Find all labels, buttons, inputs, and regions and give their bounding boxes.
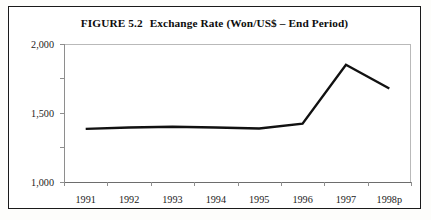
x-tick-mark	[324, 182, 325, 186]
x-tick-label: 1996	[292, 194, 312, 205]
x-tick-label: 1998p	[377, 194, 402, 205]
figure-screenshot: FIGURE 5.2Exchange Rate (Won/US$ – End P…	[0, 0, 431, 220]
x-tick-mark	[107, 182, 108, 186]
y-tick-label: 1,000	[31, 176, 54, 187]
x-tick-mark	[64, 182, 65, 186]
plot-wrapper: 0%5001,0001,5002,000 1991199219931994199…	[8, 6, 421, 209]
x-tick-mark	[411, 182, 412, 186]
x-tick-label: 1997	[336, 194, 356, 205]
x-tick-mark	[238, 182, 239, 186]
plot-area: 0%5001,0001,5002,000 1991199219931994199…	[64, 44, 411, 182]
x-tick-label: 1991	[76, 194, 96, 205]
y-tick-label: 2,000	[31, 38, 54, 49]
x-tick-label: 1993	[162, 194, 182, 205]
x-tick-mark	[368, 182, 369, 186]
y-tick-label: 1,500	[31, 107, 54, 118]
x-tick-mark	[151, 182, 152, 186]
series-polyline	[86, 64, 390, 128]
x-tick-mark	[281, 182, 282, 186]
x-tick-label: 1995	[249, 194, 269, 205]
exchange-rate-line-series	[64, 44, 411, 182]
x-tick-label: 1994	[206, 194, 226, 205]
x-tick-label: 1992	[119, 194, 139, 205]
x-tick-mark	[194, 182, 195, 186]
